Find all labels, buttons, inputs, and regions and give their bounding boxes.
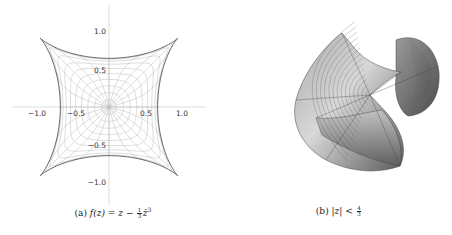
plot-a: −1.0 −0.5 0.5 1.0 1.0 0.5 −0.5 −1.0 <box>0 0 226 205</box>
polar-grid <box>40 38 178 176</box>
grid-curve <box>109 38 178 107</box>
surface-plot-b <box>226 0 452 205</box>
caption-math: |z| <box>332 206 343 216</box>
x-tick-label: 1.0 <box>176 109 188 118</box>
exponent: 3 <box>148 206 152 213</box>
caption-math: − <box>126 208 134 218</box>
caption-math: f(z) <box>90 208 105 218</box>
caption-label: (a) <box>75 208 87 218</box>
panel-a: −1.0 −0.5 0.5 1.0 1.0 0.5 −0.5 −1.0 (a) … <box>0 0 226 235</box>
caption-math: z <box>118 208 123 218</box>
caption-math: < <box>345 206 353 216</box>
panel-b: (b) |z| < 43 <box>226 0 452 235</box>
denominator: 3 <box>137 214 142 219</box>
grid-curve <box>73 54 109 107</box>
caption-label: (b) <box>316 206 329 216</box>
y-tick-label: 0.5 <box>94 66 106 75</box>
caption-b: (b) |z| < 43 <box>226 206 452 217</box>
y-tick-label: −1.0 <box>88 178 106 187</box>
y-tick-label: −0.5 <box>88 141 106 150</box>
x-tick-label: 0.5 <box>140 109 152 118</box>
caption-a: (a) f(z) = z − 13z̄3 <box>0 206 226 219</box>
caption-math: = <box>108 208 116 218</box>
grid-curve <box>109 54 145 107</box>
x-tick-label: −1.0 <box>28 109 46 118</box>
fraction: 13 <box>137 208 142 219</box>
denominator: 3 <box>357 212 362 217</box>
fraction: 43 <box>357 206 362 217</box>
grid-curve <box>56 71 109 107</box>
grid-curve <box>109 71 162 107</box>
grid-curve <box>109 107 162 143</box>
x-tick-label: −0.5 <box>67 109 85 118</box>
y-tick-label: 1.0 <box>94 27 106 36</box>
